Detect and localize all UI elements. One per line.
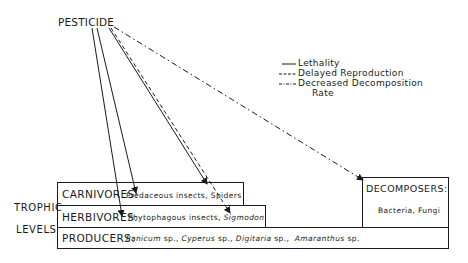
producers-species: Panicum sp., Cyperus sp., Digitaria sp.,… [126,234,360,243]
decomposers-desc: Bacteria, Fungi [378,206,440,215]
legend-item-delayed-reproduction: Delayed Reproduction [298,68,404,78]
producers-box: PRODUCERS: Panicum sp., Cyperus sp., Dig… [57,227,449,249]
species-genus: Panicum [126,234,161,243]
carnivores-box: CARNIVORES: Predaceous insects, Spiders [57,182,244,206]
pesticide-label: PESTICIDE [58,16,114,28]
legend-item-decreased-decomposition-line2: Rate [312,88,334,98]
species-genus: Cyperus [182,234,216,243]
producers-title: PRODUCERS: [62,232,135,244]
herbivores-title: HERBIVORES: [62,211,138,223]
side-label-levels: LEVELS [16,224,57,235]
lethality-arrow-carnivores [97,28,136,193]
lethality-arrow-spiders [109,28,207,184]
herbivores-desc-italic: Sigmodon [224,213,265,222]
herbivores-desc: Phytophagous insects, Sigmodon [128,213,264,222]
side-label-trophic: TROPHIC [14,202,63,213]
carnivores-desc: Predaceous insects, Spiders [126,191,242,200]
herbivores-box: HERBIVORES: Phytophagous insects, Sigmod… [57,205,266,228]
legend-item-decreased-decomposition: Decreased Decomposition [298,78,423,88]
legend-item-lethality: Lethality [298,58,340,68]
species-suffix: sp., [161,234,179,243]
decomposition-arrow [114,27,363,180]
species-genus: Amaranthus [295,234,345,243]
species-suffix: sp., [271,234,289,243]
herbivores-desc-plain: Phytophagous insects, [128,213,224,222]
decomposers-box: DECOMPOSERS: Bacteria, Fungi [362,177,449,228]
species-suffix: sp. [345,234,360,243]
species-suffix: sp., [215,234,233,243]
species-genus: Digitaria [236,234,272,243]
decomposers-title: DECOMPOSERS: [366,183,448,194]
